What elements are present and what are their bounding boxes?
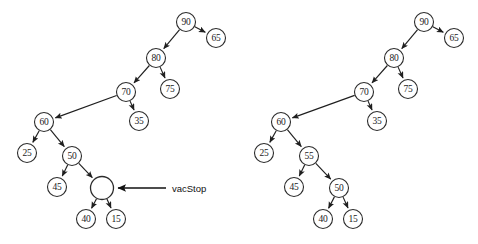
left-tree-nodes: 906580757035602550454015: [18, 13, 226, 229]
node-label: 50: [67, 151, 77, 161]
tree-edge: [79, 163, 93, 177]
node-label: 60: [39, 117, 49, 127]
tree-node: 90: [177, 13, 196, 32]
annotation-layer: vacStop: [118, 183, 206, 194]
node-label: 65: [449, 33, 459, 43]
node-label: 45: [52, 182, 62, 192]
tree-edge: [433, 27, 444, 33]
node-label: 70: [121, 87, 131, 97]
tree-node: 35: [368, 112, 387, 131]
node-label: 40: [81, 214, 91, 224]
tree-edge: [130, 101, 134, 110]
tree-node: 50: [63, 147, 82, 166]
node-label: 25: [259, 148, 269, 158]
tree-node: 70: [117, 83, 136, 102]
tree-edge: [92, 199, 97, 209]
node-label: 40: [318, 214, 328, 224]
tree-edge: [107, 199, 111, 208]
tree-node: 15: [107, 210, 126, 229]
diagram-canvas: vacStop 906580757035602550454015 9065807…: [0, 0, 478, 244]
node-label: 70: [359, 87, 369, 97]
tree-node: 75: [161, 80, 180, 99]
node-label: 65: [211, 33, 221, 43]
empty-node: [91, 177, 114, 200]
node-label: 55: [304, 151, 314, 161]
tree-node: 65: [445, 29, 464, 48]
tree-edge: [398, 67, 403, 78]
tree-node: 45: [285, 178, 304, 197]
tree-edge: [33, 131, 39, 143]
tree-node: 75: [399, 80, 418, 99]
tree-edge: [50, 130, 64, 147]
tree-node: 60: [35, 113, 54, 132]
node-label: 75: [165, 84, 175, 94]
tree-edge: [372, 65, 387, 82]
right-tree-nodes: 90658075703560255545504015: [255, 13, 464, 229]
annotation-label: vacStop: [172, 183, 206, 194]
tree-edge: [134, 65, 149, 82]
node-label: 45: [289, 182, 299, 192]
node-label: 15: [348, 214, 358, 224]
tree-edge: [164, 30, 180, 49]
tree-node: 55: [300, 147, 319, 166]
tree-edge: [343, 197, 348, 208]
tree-edge: [55, 95, 116, 117]
binary-tree-figure: vacStop 906580757035602550454015 9065807…: [0, 0, 478, 244]
tree-node: 80: [385, 49, 404, 68]
tree-edge: [329, 197, 335, 208]
tree-node: 90: [415, 13, 434, 32]
node-label: 15: [111, 214, 121, 224]
tree-node: 50: [330, 179, 349, 198]
node-label: 60: [276, 117, 286, 127]
tree-node: 65: [207, 29, 226, 48]
node-label: 35: [372, 116, 382, 126]
tree-node: 70: [355, 83, 374, 102]
node-label: 90: [181, 17, 191, 27]
tree-edge: [195, 27, 206, 33]
tree-node: 15: [344, 210, 363, 229]
tree-edge: [368, 101, 372, 110]
tree-edge: [62, 165, 67, 176]
tree-edge: [160, 67, 165, 78]
tree-node: 35: [130, 112, 149, 131]
tree-edge: [287, 130, 301, 147]
tree-node: 45: [48, 178, 67, 197]
node-label: 25: [22, 148, 32, 158]
node-label: 80: [389, 53, 399, 63]
tree-edge: [402, 30, 418, 49]
node-label: 35: [134, 116, 144, 126]
tree-edge: [299, 165, 304, 176]
node-label: 75: [403, 84, 413, 94]
tree-node: 80: [147, 49, 166, 68]
tree-node: 40: [314, 210, 333, 229]
tree-node: 40: [77, 210, 96, 229]
tree-edge: [316, 163, 331, 179]
tree-node: 25: [18, 144, 37, 163]
tree-node: 25: [255, 144, 274, 163]
tree-edge: [270, 131, 276, 143]
node-label: 80: [151, 53, 161, 63]
empty-node-circle: [91, 177, 114, 200]
tree-edge: [292, 95, 354, 117]
node-label: 50: [334, 183, 344, 193]
tree-node: 60: [272, 113, 291, 132]
node-label: 90: [419, 17, 429, 27]
